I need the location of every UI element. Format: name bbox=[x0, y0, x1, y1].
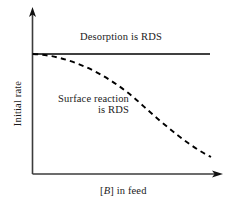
annotation-surface-reaction-is-rds: Surface reaction is RDS bbox=[36, 93, 129, 115]
annotation-surface-line-1: Surface reaction bbox=[36, 93, 129, 104]
annotation-surface-line-2: is RDS bbox=[36, 104, 129, 115]
x-axis-label: [B] in feed bbox=[100, 185, 147, 196]
annotation-desorption-is-rds: Desorption is RDS bbox=[80, 31, 162, 42]
y-axis-label: Initial rate bbox=[12, 64, 23, 144]
x-axis-label-suffix: ] in feed bbox=[110, 185, 146, 196]
kinetics-schematic-figure: Desorption is RDS Surface reaction is RD… bbox=[0, 0, 235, 204]
